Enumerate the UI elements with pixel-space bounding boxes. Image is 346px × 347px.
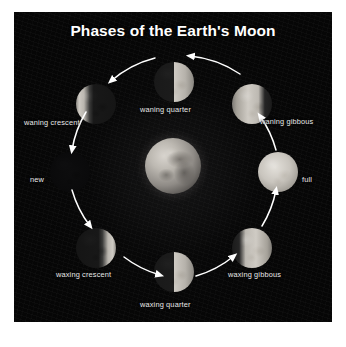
moon-waxing-quarter: [154, 252, 194, 292]
label-waning-gibbous: waning gibbous: [260, 117, 313, 126]
moon-surface: [154, 62, 194, 102]
label-waxing-crescent: waxing crescent: [56, 270, 111, 279]
earth-landmass: [145, 138, 201, 194]
moon-surface: [50, 152, 90, 192]
moon-surface: [76, 84, 116, 124]
moon-phases-figure: Phases of the Earth's Moon: [0, 0, 346, 347]
moon-full: [258, 152, 298, 192]
label-full: full: [302, 175, 312, 184]
moon-waxing-gibbous: [232, 228, 272, 268]
moon-waning-quarter: [154, 62, 194, 102]
label-waning-quarter: waning quarter: [140, 105, 191, 114]
moon-surface: [154, 252, 194, 292]
diagram-panel: Phases of the Earth's Moon: [14, 12, 332, 322]
label-waning-crescent: waning crescent: [24, 118, 80, 127]
label-waxing-gibbous: waxing gibbous: [228, 270, 281, 279]
moon-waxing-crescent: [76, 228, 116, 268]
moon-surface: [76, 228, 116, 268]
moon-waning-crescent: [76, 84, 116, 124]
moon-surface: [232, 228, 272, 268]
label-new: new: [30, 175, 44, 184]
moon-new: [50, 152, 90, 192]
moon-surface: [258, 152, 298, 192]
page-title: Phases of the Earth's Moon: [14, 22, 332, 40]
label-waxing-quarter: waxing quarter: [140, 300, 191, 309]
earth: [145, 138, 201, 194]
